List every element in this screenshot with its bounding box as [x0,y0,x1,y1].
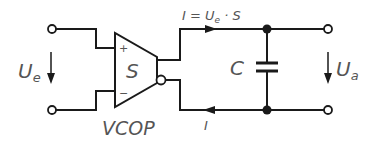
input-voltage-label: Ue [18,59,41,85]
circuit-diagram: + − S VCOP Ue Ua C I = Ue · S I [0,0,378,150]
transconductance-label: S [126,59,139,83]
inverting-input-label: − [119,87,128,100]
current-arrow-top-icon [205,25,217,33]
non-inverting-input-label: + [119,42,128,55]
input-wire-top [56,29,115,48]
output-terminal-bottom [324,106,332,114]
amplifier-name-label: VCOP [102,117,155,139]
junction-top [263,25,272,34]
inverting-output-bubble [157,76,166,85]
output-terminal-top [324,25,332,33]
current-top-label: I = Ue · S [182,8,241,25]
current-bottom-label: I [204,118,208,133]
junction-bottom [263,106,272,115]
output-wire-bottom [166,80,267,110]
input-terminal-bottom [48,106,56,114]
input-terminal-top [48,25,56,33]
output-voltage-label: Ua [336,57,359,83]
output-wire-top [157,29,267,60]
current-arrow-bottom-icon [203,106,215,114]
input-wire-bottom [56,91,115,110]
capacitor-label: C [230,56,244,80]
